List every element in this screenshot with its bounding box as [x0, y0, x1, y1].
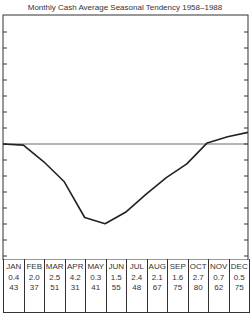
table-cell-row1: 0.7 — [209, 273, 229, 284]
table-cell-month: AUG — [148, 262, 168, 273]
table-column-apr: APR4.231 — [66, 259, 87, 312]
table-column-sep: SEP1.675 — [168, 259, 189, 312]
table-column-dec: DEC0.575 — [230, 259, 251, 312]
table-column-oct: OCT2.780 — [189, 259, 210, 312]
table-cell-row1: 2.0 — [25, 273, 45, 284]
table-cell-row1: 1.5 — [107, 273, 127, 284]
table-cell-month: FEB — [25, 262, 45, 273]
table-column-aug: AUG2.167 — [148, 259, 169, 312]
table-cell-row1: 0.3 — [86, 273, 106, 284]
table-cell-row2: 51 — [45, 283, 65, 294]
table-cell-row1: 1.6 — [168, 273, 188, 284]
table-cell-row2: 48 — [127, 283, 147, 294]
table-cell-row2: 55 — [107, 283, 127, 294]
table-cell-row2: 41 — [86, 283, 106, 294]
table-column-feb: FEB2.037 — [25, 259, 46, 312]
table-cell-row1: 2.5 — [45, 273, 65, 284]
table-cell-month: NOV — [209, 262, 229, 273]
monthly-data-table: JAN0.443FEB2.037MAR2.551APR4.231MAY0.341… — [3, 259, 250, 313]
table-cell-month: SEP — [168, 262, 188, 273]
table-cell-row2: 80 — [189, 283, 209, 294]
table-cell-row2: 75 — [230, 283, 250, 294]
table-cell-row2: 43 — [4, 283, 24, 294]
table-cell-row1: 2.4 — [127, 273, 147, 284]
table-cell-row2: 67 — [148, 283, 168, 294]
seasonal-line — [3, 132, 248, 223]
table-cell-month: JUL — [127, 262, 147, 273]
line-chart — [0, 0, 250, 260]
table-column-nov: NOV0.762 — [209, 259, 230, 312]
table-column-may: MAY0.341 — [86, 259, 107, 312]
table-cell-row2: 62 — [209, 283, 229, 294]
table-cell-month: MAR — [45, 262, 65, 273]
table-cell-row2: 75 — [168, 283, 188, 294]
table-cell-month: JUN — [107, 262, 127, 273]
table-cell-month: DEC — [230, 262, 250, 273]
table-cell-row1: 0.4 — [4, 273, 24, 284]
table-cell-row1: 2.1 — [148, 273, 168, 284]
table-cell-row1: 4.2 — [66, 273, 86, 284]
table-cell-row2: 31 — [66, 283, 86, 294]
table-column-jul: JUL2.448 — [127, 259, 148, 312]
table-column-mar: MAR2.551 — [45, 259, 66, 312]
table-cell-month: MAY — [86, 262, 106, 273]
table-cell-month: OCT — [189, 262, 209, 273]
table-column-jan: JAN0.443 — [4, 259, 25, 312]
table-cell-month: JAN — [4, 262, 24, 273]
table-column-jun: JUN1.555 — [107, 259, 128, 312]
table-cell-row1: 2.7 — [189, 273, 209, 284]
table-cell-row1: 0.5 — [230, 273, 250, 284]
table-cell-month: APR — [66, 262, 86, 273]
table-cell-row2: 37 — [25, 283, 45, 294]
